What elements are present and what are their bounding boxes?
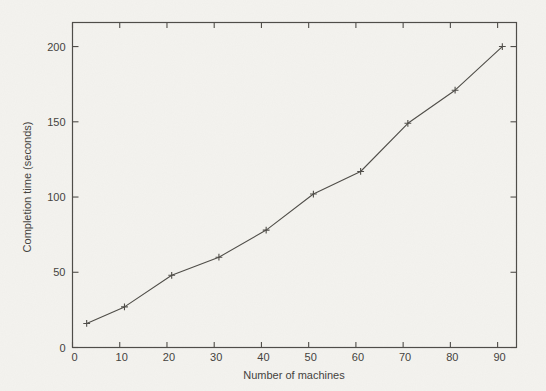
- x-tick-label: 20: [163, 351, 175, 363]
- x-axis-title: Number of machines: [243, 369, 345, 381]
- y-tick-label: 200: [47, 41, 65, 53]
- completion-time-line-chart: 0102030405060708090050100150200 Number o…: [0, 0, 546, 391]
- x-tick-label: 90: [493, 351, 505, 363]
- x-tick-label: 40: [257, 351, 269, 363]
- y-tick-label: 100: [47, 191, 65, 203]
- x-tick-label: 80: [446, 351, 458, 363]
- y-tick-label: 150: [47, 116, 65, 128]
- x-tick-label: 70: [399, 351, 411, 363]
- y-tick-label: 50: [53, 266, 65, 278]
- x-tick-label: 10: [116, 351, 128, 363]
- y-tick-label: 0: [59, 342, 65, 354]
- x-tick-label: 60: [352, 351, 364, 363]
- x-tick-label: 50: [305, 351, 317, 363]
- x-tick-label: 30: [210, 351, 222, 363]
- scanned-figure-page: 0102030405060708090050100150200 Number o…: [0, 0, 546, 391]
- y-axis-title: Completion time (seconds): [21, 122, 33, 253]
- x-tick-label: 0: [71, 351, 77, 363]
- scan-noise-overlay: [0, 0, 546, 391]
